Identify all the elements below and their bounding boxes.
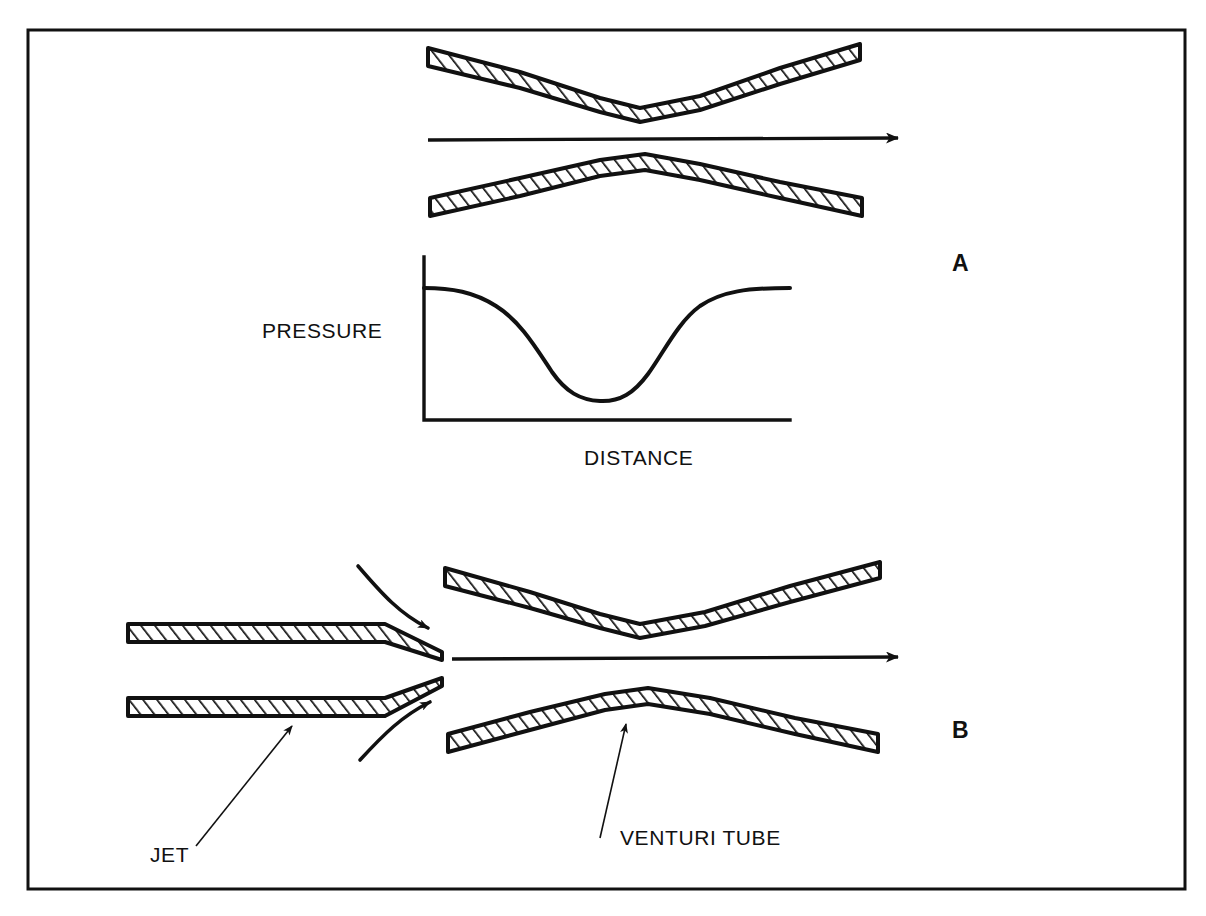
panel-b: JET VENTURI TUBE B xyxy=(110,540,969,866)
chart-axes xyxy=(424,257,790,420)
flow-axis-arrow-a xyxy=(428,138,898,140)
venturi-diagram: PRESSURE DISTANCE A xyxy=(0,0,1206,916)
panel-label-b: B xyxy=(952,717,969,743)
venturi-leader-line xyxy=(600,724,626,838)
jet-leader-line xyxy=(196,726,292,846)
jet-upper-wall xyxy=(110,610,460,680)
pressure-chart xyxy=(424,257,790,420)
pressure-axis-label: PRESSURE xyxy=(262,319,382,342)
jet-lower-wall xyxy=(110,668,460,730)
panel-label-a: A xyxy=(952,250,969,276)
distance-axis-label: DISTANCE xyxy=(584,446,693,469)
pressure-curve xyxy=(424,288,790,401)
panel-a: PRESSURE DISTANCE A xyxy=(262,20,969,469)
venturi-lower-wall-b xyxy=(420,670,920,780)
figure-root: PRESSURE DISTANCE A xyxy=(0,0,1206,916)
venturi-upper-wall-a xyxy=(400,20,900,150)
entrained-flow-arrow-upper xyxy=(358,566,428,628)
venturi-upper-wall-b xyxy=(420,540,920,660)
flow-axis-arrow-b xyxy=(452,657,898,659)
jet-label: JET xyxy=(150,843,189,866)
venturi-lower-wall-a xyxy=(400,140,900,240)
venturi-tube-label: VENTURI TUBE xyxy=(620,826,781,849)
